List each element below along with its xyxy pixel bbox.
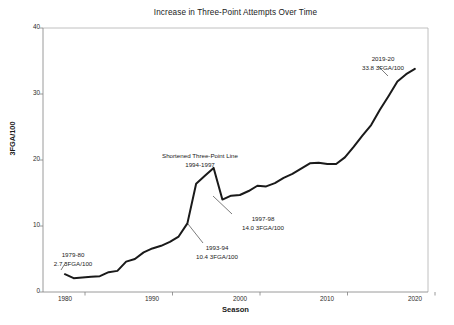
- x-tick-marks: [85, 292, 435, 296]
- plot-area: [0, 0, 454, 325]
- axes-frame: [43, 28, 428, 292]
- data-series-3fga-per-100: [65, 69, 415, 278]
- annotation-leader-lines: [61, 66, 388, 270]
- chart-figure: Increase in Three-Point Attempts Over Ti…: [0, 0, 454, 325]
- y-tick-marks: [40, 28, 44, 292]
